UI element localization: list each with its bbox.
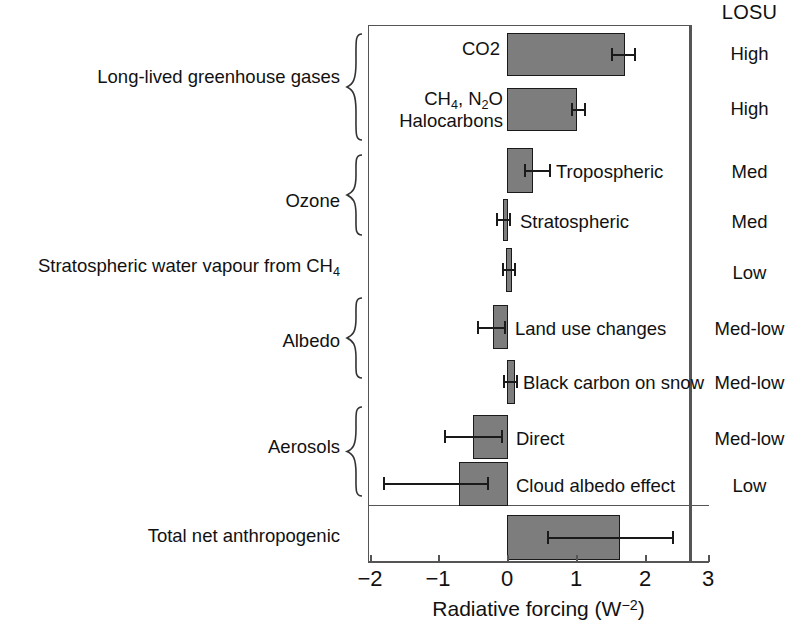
bar-label-ch4-n2o: CH4, N2O [418, 88, 503, 112]
losu-value-co2: High [690, 43, 809, 65]
errorbar-cap-stratwater-high [514, 263, 516, 276]
x-axis-title-main: Radiative forcing (W [432, 597, 621, 620]
n2o-comma: , N [458, 88, 482, 109]
ch4-text: CH [424, 88, 451, 109]
x-ticklabel-0: 0 [487, 566, 527, 592]
x-axis-title: Radiative forcing (W−2) [368, 597, 709, 621]
x-tick-2 [645, 555, 647, 562]
errorbar-cap-stratospheric-high [509, 213, 511, 226]
errorbar-cap-direct-low [444, 430, 446, 443]
bar-ch4-n2o-halocarbons [507, 88, 577, 131]
group-label-aerosols: Aerosols [40, 436, 340, 458]
errorbar-cap-ch4-low [571, 103, 573, 116]
bar-label-land-use-changes: Land use changes [515, 318, 666, 340]
errorbar-tropospheric [524, 170, 550, 172]
errorbar-cap-cloudalbedo-high [487, 477, 489, 490]
bar-label-cloud-albedo-effect: Cloud albedo effect [516, 475, 675, 497]
brace-ozone [344, 153, 364, 237]
bar-label-tropospheric: Tropospheric [556, 161, 663, 183]
errorbar-co2 [612, 54, 635, 56]
errorbar-cap-stratospheric-low [496, 213, 498, 226]
losu-value-landuse: Med-low [690, 318, 809, 340]
group-label-total-net-anthropogenic: Total net anthropogenic [40, 525, 340, 547]
bar-label-halocarbons: Halocarbons [398, 110, 503, 132]
losu-value-blackcarbon: Med-low [690, 372, 809, 394]
bar-label-stratospheric: Stratospheric [520, 211, 629, 233]
errorbar-cap-tropospheric-high [549, 164, 551, 177]
errorbar-landuse [478, 327, 505, 329]
losu-value-cloudalbedo: Low [690, 475, 809, 497]
bar-label-black-carbon-on-snow: Black carbon on snow [523, 372, 704, 394]
x-axis-title-end: ) [638, 597, 645, 620]
bar-label-co2: CO2 [462, 38, 500, 60]
x-ticklabel--2: −2 [350, 566, 390, 592]
x-tick-1 [576, 555, 578, 562]
errorbar-cap-co2-high [634, 48, 636, 61]
errorbar-cap-blackcarbon-high [516, 375, 518, 388]
errorbar-total [548, 537, 673, 539]
group-label-stratwater-subscript: 4 [333, 265, 340, 279]
group-label-albedo: Albedo [40, 330, 340, 352]
errorbar-cap-co2-low [611, 48, 613, 61]
losu-column-header: LOSU [690, 1, 809, 24]
losu-value-stratospheric: Med [690, 211, 809, 233]
errorbar-cap-total-high [672, 531, 674, 544]
x-ticklabel-2: 2 [625, 566, 665, 592]
errorbar-cap-ch4-high [584, 103, 586, 116]
errorbar-cap-blackcarbon-low [503, 375, 505, 388]
x-tick--2 [370, 555, 372, 562]
errorbar-cap-landuse-high [504, 321, 506, 334]
errorbar-cap-direct-high [501, 430, 503, 443]
errorbar-cap-cloudalbedo-low [383, 477, 385, 490]
errorbar-direct [445, 436, 502, 438]
losu-value-direct: Med-low [690, 428, 809, 450]
losu-value-stratwater: Low [690, 262, 809, 284]
x-ticklabel-3: 3 [688, 566, 728, 592]
errorbar-cloudalbedo [384, 483, 488, 485]
losu-value-ch4: High [690, 98, 809, 120]
x-ticklabel--1: −1 [418, 566, 458, 592]
losu-value-tropospheric: Med [690, 161, 809, 183]
n2o-o: O [489, 88, 503, 109]
x-axis-title-exponent: −2 [621, 597, 637, 613]
errorbar-cap-tropospheric-low [524, 164, 526, 177]
errorbar-cap-total-low [547, 531, 549, 544]
x-axis-line [368, 561, 709, 563]
brace-greenhouse-gases [344, 32, 364, 142]
group-label-stratospheric-water-vapour: Stratospheric water vapour from CH4 [0, 255, 340, 279]
brace-albedo [344, 296, 364, 380]
bar-label-direct: Direct [516, 428, 564, 450]
errorbar-cap-landuse-low [477, 321, 479, 334]
chart-canvas: LOSU Long-lived greenhouse gases Ozone S… [0, 0, 809, 631]
group-label-greenhouse-gases: Long-lived greenhouse gases [40, 66, 340, 88]
group-label-ozone: Ozone [40, 190, 340, 212]
x-tick-0 [507, 555, 509, 562]
brace-aerosols [344, 405, 364, 498]
x-ticklabel-1: 1 [556, 566, 596, 592]
bar-co2 [507, 33, 625, 76]
total-row-separator [368, 505, 709, 506]
x-tick-3 [708, 555, 710, 562]
x-tick--1 [438, 555, 440, 562]
group-label-stratwater-text: Stratospheric water vapour from CH [38, 255, 333, 276]
errorbar-cap-stratwater-low [502, 263, 504, 276]
